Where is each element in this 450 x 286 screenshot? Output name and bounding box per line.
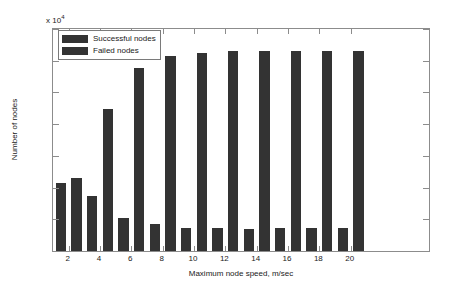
x-axis-tick-mirror bbox=[163, 29, 164, 34]
bar-group bbox=[150, 29, 176, 251]
bar-failed-nodes bbox=[103, 109, 113, 251]
bar-group bbox=[244, 29, 270, 251]
bar-failed-nodes bbox=[353, 51, 363, 251]
bar-successful-nodes bbox=[212, 228, 222, 251]
bar-successful-nodes bbox=[150, 224, 160, 251]
plot-area: 00.511.522.533.5 Successful nodesFailed … bbox=[52, 28, 430, 252]
x-axis-tick-label: 8 bbox=[159, 255, 163, 263]
x-axis-tick bbox=[225, 246, 226, 251]
x-axis-tick-label: 12 bbox=[220, 255, 229, 263]
bar-failed-nodes bbox=[322, 51, 332, 251]
x-axis-title: Maximum node speed, m/sec bbox=[52, 269, 430, 278]
y-axis-exponent: x 104 bbox=[46, 13, 64, 25]
x-axis-tick-mirror bbox=[257, 29, 258, 34]
x-axis-tick-mirror bbox=[288, 29, 289, 34]
bar-successful-nodes bbox=[275, 228, 285, 251]
bar-group bbox=[56, 29, 82, 251]
x-axis-tick-label: 4 bbox=[97, 255, 101, 263]
bar-group bbox=[212, 29, 238, 251]
x-axis-tick bbox=[288, 246, 289, 251]
x-axis-tick bbox=[319, 246, 320, 251]
bar-failed-nodes bbox=[228, 51, 238, 251]
y-axis-tick bbox=[53, 251, 59, 252]
y-axis-title: Number of nodes bbox=[10, 70, 19, 190]
bars-layer bbox=[53, 29, 429, 251]
bar-group bbox=[338, 29, 364, 251]
bar-failed-nodes bbox=[197, 53, 207, 251]
bar-successful-nodes bbox=[244, 229, 254, 251]
x-axis-tick-label: 20 bbox=[345, 255, 354, 263]
bar-successful-nodes bbox=[338, 228, 348, 251]
bar-group bbox=[306, 29, 332, 251]
x-axis-tick-label: 2 bbox=[65, 255, 69, 263]
legend-label: Successful nodes bbox=[93, 35, 156, 43]
bar-successful-nodes bbox=[56, 183, 66, 252]
bar-failed-nodes bbox=[259, 51, 269, 251]
bar-successful-nodes bbox=[306, 228, 316, 251]
chart-legend: Successful nodesFailed nodes bbox=[58, 30, 161, 60]
legend-swatch-icon bbox=[62, 47, 88, 55]
bar-group bbox=[275, 29, 301, 251]
bar-failed-nodes bbox=[71, 178, 81, 251]
bar-successful-nodes bbox=[118, 218, 128, 251]
x-axis-tick bbox=[194, 246, 195, 251]
x-axis-tick bbox=[131, 246, 132, 251]
x-axis-tick-label: 10 bbox=[189, 255, 198, 263]
bar-group bbox=[118, 29, 144, 251]
y-axis-tick-mirror bbox=[423, 251, 429, 252]
bar-successful-nodes bbox=[87, 196, 97, 251]
legend-label: Failed nodes bbox=[93, 47, 139, 55]
x-axis-tick-mirror bbox=[194, 29, 195, 34]
bar-group bbox=[181, 29, 207, 251]
legend-item-failed-nodes: Failed nodes bbox=[62, 45, 156, 57]
x-axis-tick bbox=[100, 246, 101, 251]
x-axis-tick-mirror bbox=[319, 29, 320, 34]
bar-successful-nodes bbox=[181, 228, 191, 251]
x-axis-tick-mirror bbox=[225, 29, 226, 34]
x-axis-tick-label: 6 bbox=[128, 255, 132, 263]
x-axis-tick-label: 18 bbox=[314, 255, 323, 263]
bar-failed-nodes bbox=[134, 68, 144, 251]
bar-failed-nodes bbox=[291, 51, 301, 251]
y-axis-exponent-base: x 10 bbox=[46, 16, 61, 25]
y-axis-exponent-power: 4 bbox=[61, 14, 64, 20]
x-axis-tick-mirror bbox=[351, 29, 352, 34]
bar-group bbox=[87, 29, 113, 251]
figure-canvas: x 104 Number of nodes 00.511.522.533.5 S… bbox=[0, 0, 450, 286]
x-axis-tick-label: 16 bbox=[283, 255, 292, 263]
x-axis-tick bbox=[257, 246, 258, 251]
legend-swatch-icon bbox=[62, 35, 88, 43]
x-axis-tick bbox=[163, 246, 164, 251]
x-axis-tick bbox=[69, 246, 70, 251]
bar-failed-nodes bbox=[165, 56, 175, 251]
legend-item-successful-nodes: Successful nodes bbox=[62, 33, 156, 45]
x-axis-tick bbox=[351, 246, 352, 251]
x-axis-tick-label: 14 bbox=[251, 255, 260, 263]
